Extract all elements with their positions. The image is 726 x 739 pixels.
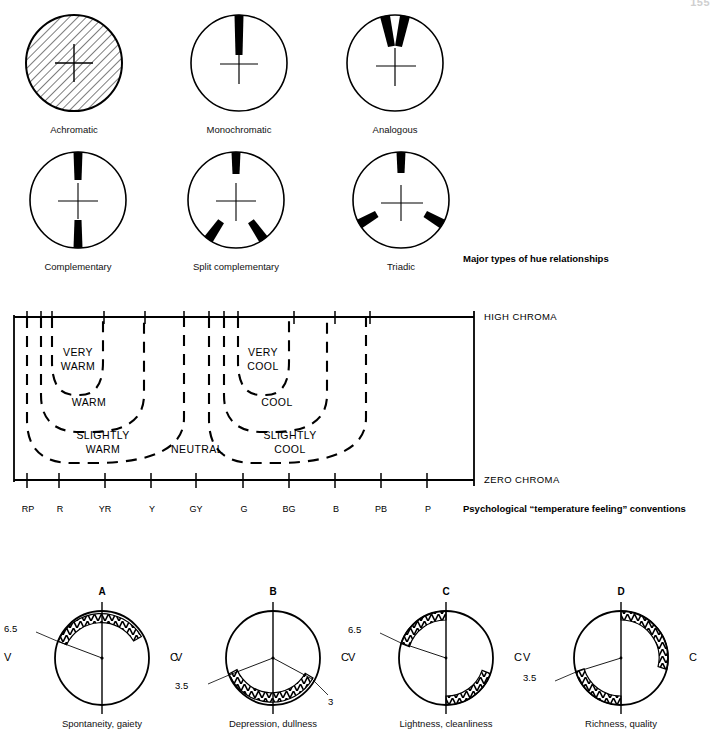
hue-figure-complementary: Complementary [14,147,142,273]
zone-label-very-warm-line1: VERY [63,346,93,358]
hue-figure-analogous: Analogous [331,8,459,136]
psych-wheel-d [533,600,709,716]
psych-axis-c-d: C [689,651,697,663]
zero-chroma-label: ZERO CHROMA [484,474,560,485]
zone-labels: VERY WARM WARM SLIGHTLY WARM NEUTRAL SLI… [61,346,317,455]
psych-wheel-a [14,600,190,716]
page-number: 155 [690,0,710,8]
zone-label-very-cool-line1: VERY [248,346,278,358]
psych-c-sector-1 [401,611,446,647]
psych-d-sector-1 [621,611,668,669]
hue-tick-r: R [50,504,70,514]
psych-value-c-1: 6.5 [348,624,361,635]
psych-value-b-1: 3.5 [175,680,188,691]
hue-tick-rp: RP [18,504,38,514]
temperature-chart-caption: Psychological “temperature feeling” conv… [463,503,686,514]
psych-c-sector-2 [446,670,490,705]
psych-a-sector [58,614,141,645]
psych-figure-a: A Spontaneity, gaiety V C 6.5 [14,600,190,716]
temperature-chart: VERY WARM WARM SLIGHTLY WARM NEUTRAL SLI… [0,300,726,515]
hue-figure-label: Complementary [14,261,142,273]
psych-caption-d: Richness, quality [533,718,709,729]
psych-value-b-2: 3 [328,696,333,707]
psych-b-sector [229,670,313,703]
hue-tick-g: G [234,504,254,514]
temperature-chart-svg: VERY WARM WARM SLIGHTLY WARM NEUTRAL SLI… [0,300,726,515]
hue-tick-bg: BG [279,504,299,514]
high-chroma-label: HIGH CHROMA [484,311,557,322]
hue-tick-yr: YR [95,504,115,514]
psych-axis-v-b: V [175,651,182,663]
psych-value-d-1: 3.5 [523,672,536,683]
psych-title-d: D [533,586,709,597]
psych-title-a: A [14,586,190,597]
zone-label-very-warm-line2: WARM [61,360,95,372]
hue-tick-b: B [326,504,346,514]
hue-figure-achromatic: Achromatic [10,8,138,136]
zone-label-neutral: NEUTRAL [171,443,223,455]
hue-tick-y: Y [142,504,162,514]
psych-axis-v-d: V [523,651,530,663]
hue-tick-pb: PB [371,504,391,514]
zone-label-very-cool-line2: COOL [247,360,278,372]
hue-tick-p: P [418,504,438,514]
psych-title-b: B [185,586,361,597]
hue-figure-label: Monochromatic [175,124,303,136]
hue-figure-split-complementary: Split complementary [172,147,300,273]
hue-figure-label: Triadic [337,261,465,273]
psych-title-c: C [358,586,534,597]
psych-wheel-b [185,600,361,716]
hue-figure-label: Analogous [331,124,459,136]
psych-caption-c: Lightness, cleanliness [358,718,534,729]
hue-figure-triadic: Triadic [337,147,465,273]
psych-caption-b: Depression, dullness [185,718,361,729]
split-complementary-wheel [172,147,300,257]
hue-tick-gy: GY [186,504,206,514]
psych-figure-c: C Lightness, cleanliness V C 6.5 [358,600,534,716]
psych-wheel-c [358,600,534,716]
psych-d-sector-2 [576,669,621,705]
zone-label-warm: WARM [72,396,106,408]
complementary-wheel [14,147,142,257]
triadic-wheel [337,147,465,257]
hue-figure-label: Split complementary [172,261,300,273]
psych-value-a-1: 6.5 [4,623,17,634]
psych-figure-b: B Depression, dullness V C 3.5 3 [185,600,361,716]
psych-axis-v-c: V [348,651,355,663]
zone-label-cool: COOL [261,396,292,408]
analogous-wheel [331,8,459,120]
hue-figure-monochromatic: Monochromatic [175,8,303,136]
zone-label-slightly-warm-line1: SLIGHTLY [76,429,129,441]
psych-axis-v-a: V [4,651,11,663]
zone-label-slightly-cool-line1: SLIGHTLY [263,429,316,441]
hue-relationships-caption: Major types of hue relationships [463,253,609,264]
zone-label-slightly-cool-line2: COOL [274,443,305,455]
figure-page: 155 Achromatic Monochromatic [0,0,726,739]
psych-figure-d: D Richness, quality V C 3.5 [533,600,709,716]
psych-axis-c-c: C [514,651,522,663]
cool-zone-contours [209,317,366,463]
warm-zone-contours [27,317,184,463]
achromatic-wheel [10,8,138,120]
hue-figure-label: Achromatic [10,124,138,136]
psych-caption-a: Spontaneity, gaiety [14,718,190,729]
zone-label-slightly-warm-line2: WARM [86,443,120,455]
monochromatic-wheel [175,8,303,120]
